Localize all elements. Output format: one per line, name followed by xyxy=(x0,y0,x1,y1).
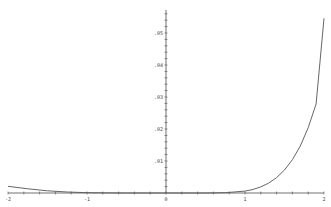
x-tick-label: 2 xyxy=(322,196,325,202)
y-tick-label: .05 xyxy=(154,30,163,36)
x-tick-label: 1 xyxy=(243,196,246,202)
x-tick-label: -1 xyxy=(84,196,90,202)
x-tick-label: -2 xyxy=(5,196,11,202)
y-axis: .01.02.03.04.05 xyxy=(154,10,168,193)
y-tick-label: .03 xyxy=(154,94,163,100)
chart: -2-1012 .01.02.03.04.05 xyxy=(0,0,331,207)
y-tick-label: .02 xyxy=(154,126,163,132)
y-tick-label: .01 xyxy=(154,158,163,164)
x-tick-label: 0 xyxy=(164,196,167,202)
y-tick-label: .04 xyxy=(154,62,163,68)
